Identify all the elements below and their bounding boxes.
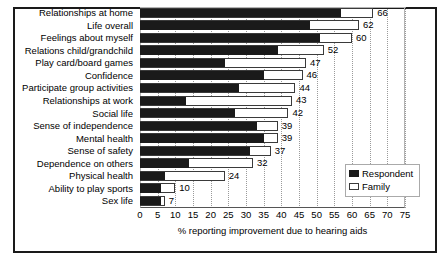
x-tick-label: 30 [241, 209, 252, 220]
x-tick-label: 10 [170, 209, 181, 220]
x-tick-label: 50 [311, 209, 322, 220]
category-label: Sense of independence [0, 120, 137, 133]
category-label: Play card/board games [0, 57, 137, 70]
category-label: Sense of safety [0, 145, 137, 158]
legend-swatch-family-icon [349, 183, 359, 190]
category-label: Physical health [0, 170, 137, 183]
legend-label-respondent: Respondent [362, 168, 413, 179]
bar-row: 39 [140, 133, 405, 146]
bar-value-label: 42 [288, 107, 303, 120]
category-label: Social life [0, 108, 137, 121]
bar-row: 52 [140, 45, 405, 58]
bar-value-label: 66 [373, 7, 388, 20]
bar-value-label: 24 [225, 170, 240, 183]
bar-value-label: 32 [253, 157, 268, 170]
legend-label-family: Family [362, 181, 390, 192]
x-tick-label: 65 [364, 209, 375, 220]
category-label: Sex life [0, 195, 137, 208]
bar-respondent [140, 34, 320, 42]
legend-item-family: Family [349, 180, 416, 193]
category-label: Confidence [0, 70, 137, 83]
bar-row: 60 [140, 32, 405, 45]
category-label: Life overall [0, 20, 137, 33]
bar-row: 7 [140, 195, 405, 208]
bar-respondent [140, 122, 257, 130]
legend-item-respondent: Respondent [349, 167, 416, 180]
x-tick-label: 60 [347, 209, 358, 220]
bar-respondent [140, 84, 239, 92]
category-label: Relationships at home [0, 7, 137, 20]
x-tick-label: 55 [329, 209, 340, 220]
bar-row: 66 [140, 7, 405, 20]
bar-row: 44 [140, 82, 405, 95]
bar-row: 43 [140, 95, 405, 108]
category-label: Relationships at work [0, 95, 137, 108]
bar-respondent [140, 172, 165, 180]
bar-value-label: 7 [165, 195, 174, 208]
bar-respondent [140, 159, 189, 167]
x-tick-label: 75 [400, 209, 411, 220]
x-tick-label: 5 [155, 209, 160, 220]
category-label: Dependence on others [0, 158, 137, 171]
bar-value-label: 62 [359, 19, 374, 32]
x-tick-label: 45 [294, 209, 305, 220]
bar-respondent [140, 184, 161, 192]
category-label: Relations child/grandchild [0, 45, 137, 58]
x-tick-label: 35 [258, 209, 269, 220]
bar-value-label: 60 [352, 32, 367, 45]
bar-value-label: 46 [303, 69, 318, 82]
x-tick-label: 0 [137, 209, 142, 220]
bar-respondent [140, 134, 264, 142]
bar-value-label: 52 [324, 44, 339, 57]
x-tick-label: 70 [382, 209, 393, 220]
bar-row: 42 [140, 108, 405, 121]
bar-value-label: 37 [271, 145, 286, 158]
category-axis-labels: Relationships at homeLife overallFeeling… [0, 7, 137, 208]
x-tick-label: 15 [188, 209, 199, 220]
bar-value-label: 39 [278, 132, 293, 145]
bar-value-label: 47 [306, 57, 321, 70]
bar-respondent [140, 71, 264, 79]
bar-respondent [140, 197, 161, 205]
bar-respondent [140, 109, 235, 117]
legend-swatch-respondent-icon [349, 170, 359, 177]
x-axis-title: % reporting improvement due to hearing a… [140, 225, 405, 236]
bar-value-label: 39 [278, 120, 293, 133]
bar-value-label: 10 [175, 182, 190, 195]
bar-row: 39 [140, 120, 405, 133]
category-label: Feelings about myself [0, 32, 137, 45]
bar-row: 46 [140, 70, 405, 83]
bar-respondent [140, 97, 186, 105]
x-tick-label: 20 [205, 209, 216, 220]
bar-respondent [140, 46, 278, 54]
category-label: Ability to play sports [0, 183, 137, 196]
bar-respondent [140, 59, 225, 67]
category-label: Mental health [0, 133, 137, 146]
bar-value-label: 43 [292, 94, 307, 107]
x-tick-label: 25 [223, 209, 234, 220]
category-label: Participate group activities [0, 82, 137, 95]
bar-respondent [140, 147, 250, 155]
x-axis-tick-labels: 051015202530354045505560657075 [140, 209, 405, 223]
chart-legend: Respondent Family [345, 164, 420, 197]
x-tick-label: 40 [276, 209, 287, 220]
bar-row: 37 [140, 145, 405, 158]
bar-respondent [140, 9, 341, 17]
bar-row: 47 [140, 57, 405, 70]
bar-value-label: 44 [295, 82, 310, 95]
bar-respondent [140, 21, 310, 29]
bar-row: 62 [140, 20, 405, 33]
